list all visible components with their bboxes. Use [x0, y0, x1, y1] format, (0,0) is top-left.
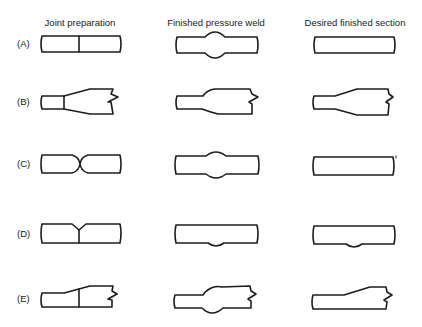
row-e-joint-preparation: [41, 286, 117, 307]
row-c-joint-preparation: [41, 155, 121, 173]
row-e-desired-section: [312, 287, 392, 309]
row-b-joint-preparation: [41, 89, 118, 114]
weld-diagram: [0, 0, 422, 327]
row-c-desired-section: [313, 156, 396, 175]
row-b-finished-weld: [176, 89, 258, 114]
row-a-desired-section: [314, 37, 395, 53]
row-d-desired-section: [313, 226, 395, 247]
row-d-finished-weld: [175, 225, 258, 246]
row-e-finished-weld: [174, 286, 256, 313]
row-a-joint-preparation: [41, 36, 121, 52]
row-b-desired-section: [313, 89, 393, 115]
row-c-finished-weld: [175, 152, 259, 178]
row-a-finished-weld: [176, 32, 258, 58]
row-d-joint-preparation: [41, 224, 121, 243]
